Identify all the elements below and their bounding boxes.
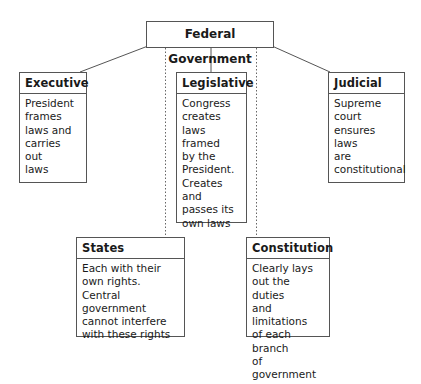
node-title: States (77, 238, 184, 259)
node-description: Supreme court ensures laws are constitut… (329, 94, 404, 180)
node-description: Congress creates laws framed by the Pres… (177, 94, 246, 233)
node-title: Executive (20, 73, 86, 94)
node-title: Constitution (247, 238, 329, 259)
judicial-node: Judicial Supreme court ensures laws are … (328, 72, 405, 183)
federal-government-node: Federal Government (146, 21, 274, 48)
executive-node: Executive President frames laws and carr… (19, 72, 87, 183)
node-description: Clearly lays out the duties and limitati… (247, 259, 329, 384)
connector-executive (80, 46, 148, 72)
node-title: Judicial (329, 73, 404, 94)
legislative-node: Legislative Congress creates laws framed… (176, 72, 247, 223)
constitution-node: Constitution Clearly lays out the duties… (246, 237, 330, 337)
node-description: Each with their own rights. Central gove… (77, 259, 184, 345)
node-description: President frames laws and carries out la… (20, 94, 86, 180)
node-title: Legislative (177, 73, 246, 94)
states-node: States Each with their own rights. Centr… (76, 237, 185, 337)
node-title: Federal Government (168, 27, 251, 66)
connector-judicial (272, 46, 330, 72)
